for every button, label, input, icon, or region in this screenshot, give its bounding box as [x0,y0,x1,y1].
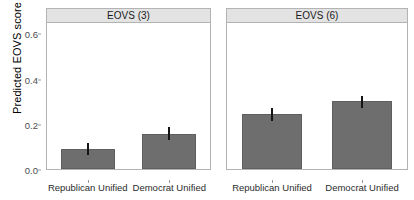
y-tick-mark [38,170,41,171]
y-tick-label: 0.6 [25,29,38,40]
error-bar [361,96,363,109]
bar-group-eovs-6 [227,23,407,169]
x-tick-label: Democrat Unified [133,182,206,193]
panel-strip-eovs-3: EOVS (3) [46,8,211,23]
bar-group-eovs-3 [47,23,210,169]
y-tick-mark [38,124,41,125]
x-tick-mark [169,180,170,183]
panel-title-eovs-3: EOVS (3) [107,11,150,21]
panel-title-eovs-6: EOVS (6) [296,11,339,21]
chart-figure: Predicted EOVS score 0.00.20.40.6 EOVS (… [0,0,414,200]
y-axis-tick-labels: 0.00.20.40.6 [15,0,41,200]
error-bar [271,108,273,121]
y-tick-mark [38,79,41,80]
plot-area-eovs-6 [226,23,408,170]
x-tick-mark [272,180,273,183]
x-tick-mark [88,180,89,183]
x-axis-tick-labels-eovs-3: Republican UnifiedDemocrat Unified [46,180,211,198]
y-tick-mark [38,34,41,35]
bar [332,101,391,169]
panel-eovs-6: EOVS (6) Republican UnifiedDemocrat Unif… [226,8,408,170]
y-tick-label: 0.0 [25,165,38,176]
x-axis-tick-labels-eovs-6: Republican UnifiedDemocrat Unified [226,180,408,198]
x-tick-mark [362,180,363,183]
x-tick-label: Republican Unified [232,182,312,193]
bar [242,114,301,169]
x-tick-label: Democrat Unified [325,182,398,193]
y-tick-label: 0.2 [25,119,38,130]
panel-eovs-3: EOVS (3) Republican UnifiedDemocrat Unif… [46,8,211,170]
plot-area-eovs-3 [46,23,211,170]
error-bar [87,143,89,155]
panel-strip-eovs-6: EOVS (6) [226,8,408,23]
x-tick-label: Republican Unified [48,182,128,193]
y-tick-label: 0.4 [25,74,38,85]
error-bar [168,127,170,139]
